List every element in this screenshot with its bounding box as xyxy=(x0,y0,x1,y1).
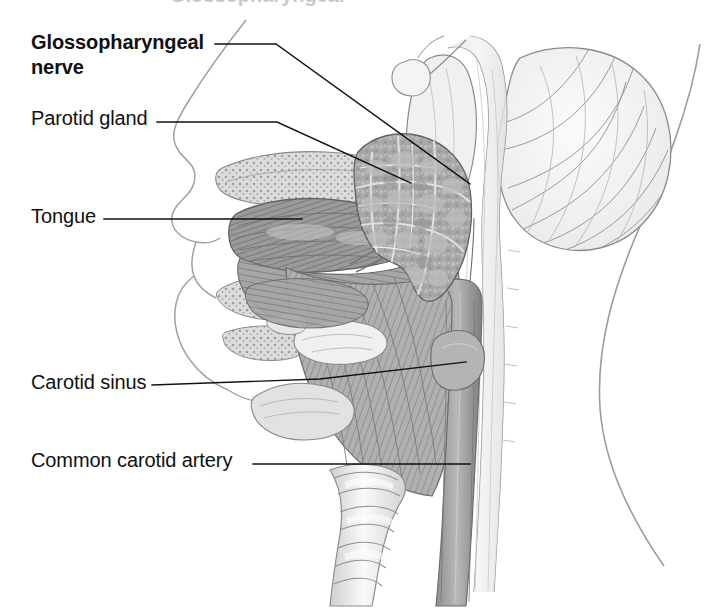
larynx-shape xyxy=(251,383,354,440)
trachea-shape xyxy=(330,464,405,606)
clipped-top-text: Glossopharyngeal xyxy=(0,0,724,14)
label-carotid-sinus: Carotid sinus xyxy=(31,370,146,395)
anatomy-illustration xyxy=(0,0,724,611)
anatomical-figure: Glossopharyngeal Glossopharyngeal nerve … xyxy=(0,0,724,611)
label-common-carotid-artery: Common carotid artery xyxy=(31,448,232,473)
label-glossopharyngeal-nerve: Glossopharyngeal nerve xyxy=(31,30,204,80)
label-parotid-gland: Parotid gland xyxy=(31,106,148,131)
label-tongue: Tongue xyxy=(31,204,96,229)
clipped-top-text-value: Glossopharyngeal xyxy=(170,0,345,7)
cerebellum-shape xyxy=(498,42,676,260)
